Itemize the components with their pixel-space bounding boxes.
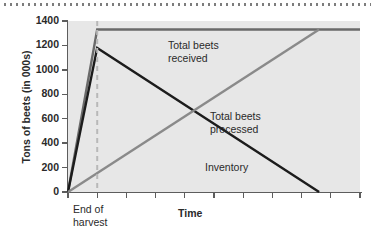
received-label-line2: received (168, 52, 208, 64)
beet-inventory-chart-figure: 0200400600800100012001400 Tons of beets … (0, 0, 375, 244)
received-label-line1: Total beets (168, 39, 219, 51)
series-label-inventory: Inventory (205, 161, 275, 174)
processed-label-line2: processed (210, 123, 258, 135)
series-label-total-beets-received: Total beets received (168, 39, 246, 64)
chart-series-svg (0, 0, 375, 244)
processed-label-line1: Total beets (210, 110, 261, 122)
series-label-total-beets-processed: Total beets processed (210, 110, 294, 135)
